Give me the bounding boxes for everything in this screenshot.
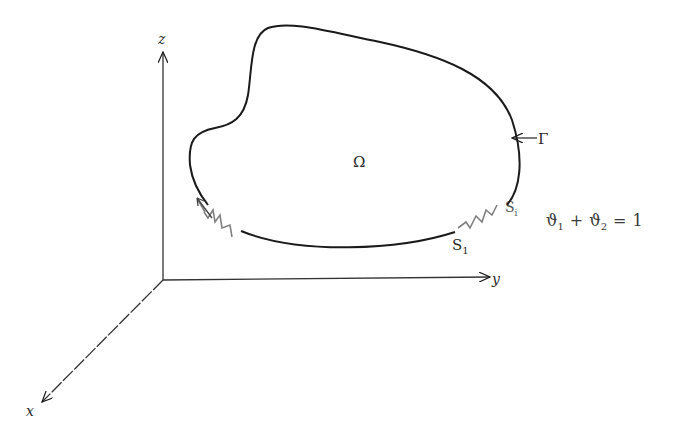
segment-squiggle-right: [458, 205, 497, 228]
z-axis-label: z: [157, 31, 166, 47]
equation: ϑ1+ϑ2=1: [546, 211, 643, 232]
region-boundary: [190, 25, 520, 247]
segment-label-s1: S1: [452, 236, 469, 256]
boundary-label: Γ: [538, 130, 548, 148]
x-axis-label: x: [26, 403, 34, 419]
axes: z y x: [26, 31, 501, 419]
segment-label-s2: Si: [505, 199, 518, 218]
y-axis: [163, 277, 490, 280]
x-axis: [42, 280, 163, 402]
region-label: Ω: [353, 153, 365, 171]
diagram-canvas: z y x Ω Γ S1 Si ϑ1+ϑ2=1: [0, 0, 678, 434]
y-axis-label: y: [491, 271, 501, 287]
